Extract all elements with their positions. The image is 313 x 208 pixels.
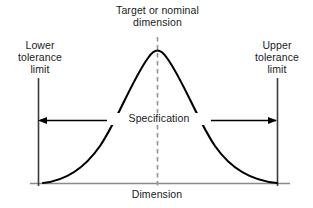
dimension-axis-label: Dimension: [107, 189, 207, 201]
tolerance-distribution-diagram: [0, 0, 313, 208]
target-nominal-dimension-label: Target or nominal dimension: [95, 5, 220, 29]
specification-label: Specification: [107, 113, 211, 125]
upper-tolerance-limit-label: Upper tolerance limit: [242, 40, 312, 75]
lower-tolerance-limit-label: Lower tolerance limit: [5, 40, 75, 75]
arrow-head-left: [38, 117, 47, 124]
arrow-head-right: [268, 117, 277, 124]
